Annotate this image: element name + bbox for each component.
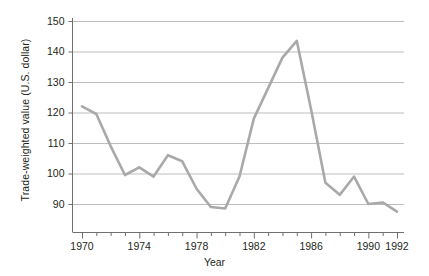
- x-tick-label: 1974: [128, 240, 152, 252]
- y-tick-label: 100: [47, 167, 65, 179]
- y-tick-label: 130: [47, 76, 65, 88]
- x-tick-label: 1990: [357, 240, 381, 252]
- x-tick-label: 1982: [242, 240, 266, 252]
- chart-container: 90100110120130140150 1970197419781982198…: [0, 0, 429, 276]
- x-tick-label: 1978: [185, 240, 209, 252]
- y-tick-label: 90: [53, 198, 65, 210]
- x-axis-tick-labels: 1970197419781982198619901992: [70, 240, 409, 252]
- y-axis-tick-labels: 90100110120130140150: [47, 15, 73, 210]
- x-axis-title: Year: [0, 256, 429, 268]
- line-chart-plot: 90100110120130140150 1970197419781982198…: [0, 0, 429, 276]
- y-tick-label: 120: [47, 106, 65, 118]
- x-axis-ticks: [83, 233, 398, 239]
- y-tick-label: 150: [47, 15, 65, 27]
- data-series-line: [82, 41, 397, 212]
- y-tick-label: 110: [48, 137, 65, 149]
- y-tick-label: 140: [47, 45, 65, 57]
- x-tick-label: 1986: [299, 240, 323, 252]
- x-tick-label: 1992: [385, 240, 409, 252]
- x-tick-label: 1970: [70, 240, 94, 252]
- series-line: [82, 41, 397, 212]
